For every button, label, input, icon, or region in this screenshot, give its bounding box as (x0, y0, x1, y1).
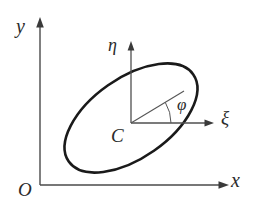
global-x-axis (40, 181, 229, 189)
local-eta-axis (128, 41, 135, 123)
xi-axis-label: ξ (221, 108, 229, 127)
origin-label: O (18, 180, 32, 199)
eta-axis-label: η (108, 36, 117, 54)
y-axis-label: y (16, 16, 25, 36)
eta-axis-arrowhead (128, 41, 135, 51)
x-axis-label: x (231, 170, 240, 190)
phi-angle-label: φ (177, 96, 186, 113)
angle-arc (165, 102, 171, 123)
centroid-label: C (111, 126, 124, 145)
xi-axis-arrowhead (205, 120, 215, 127)
x-axis-arrowhead (219, 181, 230, 189)
local-xi-axis (131, 120, 214, 127)
y-axis-arrowhead (36, 17, 44, 28)
global-y-axis (36, 17, 44, 185)
figure-canvas: y x O η ξ C φ (0, 0, 265, 218)
